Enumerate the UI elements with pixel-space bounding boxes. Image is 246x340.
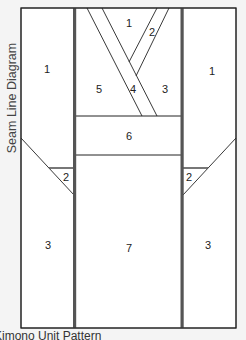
pattern-caption: Kimono Unit Pattern (0, 329, 101, 340)
left-panel-piece-3: 3 (45, 239, 51, 251)
left-panel-piece-1: 1 (44, 63, 50, 75)
right-panel-piece-1: 1 (209, 65, 215, 77)
left-seam-line (73, 8, 76, 328)
right-panel-piece-2: 2 (186, 171, 192, 183)
center-piece-7: 7 (126, 242, 132, 254)
center-piece-3: 3 (162, 83, 168, 95)
center-piece-5: 5 (96, 83, 102, 95)
center-piece-4: 4 (130, 83, 136, 95)
center-piece-2: 2 (149, 26, 155, 38)
kimono-seam-diagram: 1 2 3 1 2 3 4 5 6 7 1 2 3 (0, 0, 246, 340)
right-panel-piece-3: 3 (205, 239, 211, 251)
right-seam-line (181, 8, 184, 328)
center-piece-6: 6 (126, 130, 132, 142)
left-panel-piece-2: 2 (63, 171, 69, 183)
center-piece-1: 1 (126, 17, 132, 29)
